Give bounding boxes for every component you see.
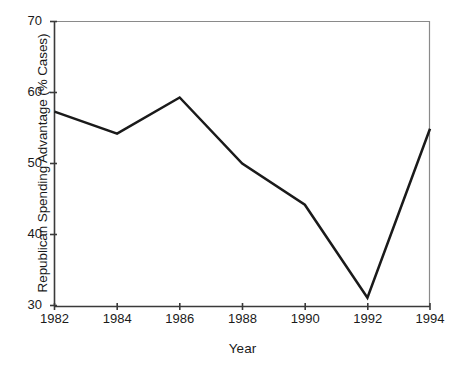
line-chart-figure: Republican Spending Advantage (% Cases) … bbox=[0, 0, 455, 374]
y-tick-label-50: 50 bbox=[2, 156, 42, 170]
y-tick-label-40: 40 bbox=[2, 227, 42, 241]
x-tick-label-1982: 1982 bbox=[25, 312, 85, 326]
y-tick-label-60: 60 bbox=[2, 85, 42, 99]
x-tick-label-1988: 1988 bbox=[213, 312, 273, 326]
y-tick-label-30: 30 bbox=[2, 298, 42, 312]
x-tick-label-1990: 1990 bbox=[275, 312, 335, 326]
y-tick-label-70: 70 bbox=[2, 14, 42, 28]
x-tick-label-1992: 1992 bbox=[338, 312, 398, 326]
x-tick-label-1994: 1994 bbox=[400, 312, 455, 326]
data-series-line bbox=[55, 97, 431, 297]
x-tick-label-1986: 1986 bbox=[150, 312, 210, 326]
x-tick-label-1984: 1984 bbox=[87, 312, 147, 326]
x-axis-title: Year bbox=[54, 341, 431, 356]
